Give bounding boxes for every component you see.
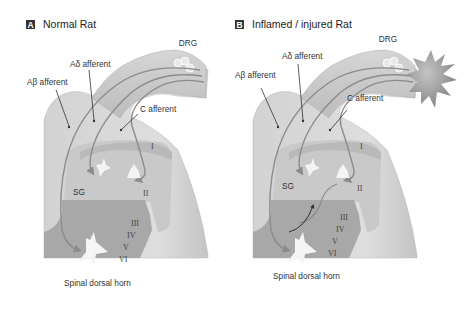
panel-inflamed-rat: B Inflamed / injured Rat DRG Aβ afferent… [235, 18, 457, 281]
drg-label: DRG [379, 34, 397, 44]
lamina-VI-label: VI [119, 255, 128, 264]
lamina-I-label: I [360, 142, 363, 151]
panel-title: Normal Rat [43, 18, 96, 30]
lamina-II-label: II [357, 184, 363, 193]
a-beta-leader-dot [277, 126, 279, 128]
panel-badge-letter: A [27, 20, 33, 30]
drg-label: DRG [179, 38, 197, 48]
panel-badge-letter: B [236, 20, 242, 30]
panel-title: Inflamed / injured Rat [252, 18, 352, 30]
lamina-I-label: I [151, 142, 154, 151]
c-fiber-leader-dot [120, 129, 122, 131]
sg-label: SG [73, 187, 85, 197]
figure: A Normal Rat DRG Aβ afferent [0, 0, 469, 310]
lamina-III-label: III [131, 219, 139, 228]
c-afferent-label: C afferent [347, 93, 384, 103]
drg-cell [390, 57, 398, 65]
a-delta-leader-dot [302, 120, 304, 122]
lamina-IV-label: IV [336, 225, 345, 234]
lamina-VI-label: VI [328, 249, 337, 258]
dorsal-horn-label: Spinal dorsal horn [273, 271, 340, 281]
a-delta-leader-dot [93, 120, 95, 122]
panel-normal-rat: A Normal Rat DRG Aβ afferent [26, 18, 208, 288]
a-beta-label: Aβ afferent [235, 70, 276, 80]
c-afferent-label: C afferent [140, 104, 177, 114]
lamina-IV-label: IV [127, 231, 136, 240]
sg-label: SG [282, 181, 294, 191]
lamina-V-label: V [123, 243, 129, 252]
c-fiber-leader-dot [329, 129, 331, 131]
dorsal-horn-label: Spinal dorsal horn [64, 278, 131, 288]
lamina-III-label: III [340, 213, 348, 222]
lamina-V-label: V [332, 237, 338, 246]
a-beta-label: Aβ afferent [27, 77, 68, 87]
a-delta-label: Aδ afferent [70, 59, 111, 69]
lamina-II-label: II [143, 189, 149, 198]
a-beta-leader-dot [68, 126, 70, 128]
injury-burst-icon [407, 50, 457, 108]
a-delta-label: Aδ afferent [282, 51, 323, 61]
drg-cell [181, 57, 189, 65]
